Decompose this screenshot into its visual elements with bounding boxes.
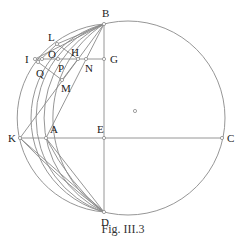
label-O: O (48, 49, 56, 60)
label-Q: Q (36, 68, 44, 79)
diagram: B L I O H G P N Q M K A E C D Fig. III.3 (0, 0, 246, 238)
main-circle (31, 21, 225, 215)
label-H: H (71, 47, 79, 58)
label-C: C (227, 133, 234, 144)
geometry-figure (0, 0, 246, 238)
label-A: A (50, 124, 58, 135)
label-E: E (97, 124, 104, 135)
label-N: N (85, 63, 93, 74)
label-P: P (58, 63, 64, 74)
label-I: I (25, 54, 29, 65)
label-B: B (102, 8, 109, 19)
label-L: L (48, 32, 55, 43)
label-G: G (110, 54, 118, 65)
label-M: M (61, 83, 71, 94)
figure-caption: Fig. III.3 (0, 222, 246, 237)
label-K: K (8, 133, 16, 144)
